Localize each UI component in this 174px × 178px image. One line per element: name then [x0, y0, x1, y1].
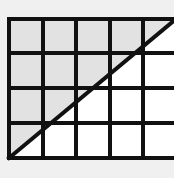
figure-container	[0, 0, 174, 178]
grid-diagram-svg	[0, 0, 174, 178]
